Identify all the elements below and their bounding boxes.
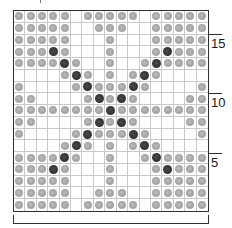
light-bead-icon bbox=[175, 106, 183, 114]
light-bead-icon bbox=[95, 130, 103, 138]
grid-cell bbox=[14, 164, 25, 176]
grid-cell bbox=[71, 117, 82, 129]
grid-cell bbox=[117, 129, 128, 141]
grid-cell bbox=[151, 117, 162, 129]
light-bead-icon bbox=[198, 95, 206, 103]
grid-cell bbox=[37, 105, 48, 117]
light-bead-icon bbox=[84, 95, 92, 103]
grid-cell bbox=[105, 152, 116, 164]
grid-cell bbox=[94, 199, 105, 211]
light-bead-icon bbox=[15, 154, 23, 162]
light-bead-icon bbox=[106, 12, 114, 20]
grid-cell bbox=[25, 23, 36, 35]
light-bead-icon bbox=[175, 12, 183, 20]
grid-cell bbox=[37, 199, 48, 211]
light-bead-icon bbox=[95, 201, 103, 209]
light-bead-icon bbox=[118, 130, 126, 138]
grid-cell bbox=[197, 93, 208, 105]
grid-cell bbox=[185, 11, 196, 23]
grid-cell bbox=[37, 93, 48, 105]
grid-cell bbox=[14, 187, 25, 199]
light-bead-icon bbox=[15, 201, 23, 209]
grid-cell bbox=[140, 58, 151, 70]
dark-bead-icon bbox=[129, 82, 138, 91]
grid-cell bbox=[117, 46, 128, 58]
grid-cell bbox=[162, 23, 173, 35]
light-bead-icon bbox=[72, 154, 80, 162]
grid-cell bbox=[94, 187, 105, 199]
grid-cell bbox=[25, 11, 36, 23]
grid-cell bbox=[25, 129, 36, 141]
light-bead-icon bbox=[84, 201, 92, 209]
grid-cell bbox=[151, 46, 162, 58]
dark-bead-icon bbox=[140, 141, 149, 150]
grid-cell bbox=[48, 117, 59, 129]
grid-cell bbox=[105, 117, 116, 129]
grid-cell bbox=[71, 129, 82, 141]
light-bead-icon bbox=[61, 201, 69, 209]
grid-cell bbox=[82, 105, 93, 117]
light-bead-icon bbox=[27, 36, 35, 44]
grid-cell bbox=[151, 82, 162, 94]
light-bead-icon bbox=[198, 48, 206, 56]
light-bead-icon bbox=[49, 106, 57, 114]
light-bead-icon bbox=[15, 177, 23, 185]
grid-cell bbox=[117, 23, 128, 35]
light-bead-icon bbox=[38, 189, 46, 197]
grid-cell bbox=[71, 105, 82, 117]
light-bead-icon bbox=[175, 165, 183, 173]
light-bead-icon bbox=[198, 165, 206, 173]
light-bead-icon bbox=[61, 142, 69, 150]
grid-cell bbox=[174, 105, 185, 117]
grid-cell bbox=[105, 140, 116, 152]
grid-cell bbox=[162, 199, 173, 211]
light-bead-icon bbox=[15, 189, 23, 197]
grid-cell bbox=[25, 82, 36, 94]
grid-cell bbox=[71, 187, 82, 199]
grid-cell bbox=[140, 187, 151, 199]
grid-cell bbox=[174, 11, 185, 23]
light-bead-icon bbox=[175, 24, 183, 32]
light-bead-icon bbox=[38, 12, 46, 20]
dark-bead-icon bbox=[83, 82, 92, 91]
light-bead-icon bbox=[175, 154, 183, 162]
grid-cell bbox=[185, 82, 196, 94]
light-bead-icon bbox=[152, 71, 160, 79]
grid-cell bbox=[82, 70, 93, 82]
grid-cell bbox=[60, 23, 71, 35]
grid-cell bbox=[174, 23, 185, 35]
grid-cell bbox=[82, 35, 93, 47]
grid-cell bbox=[71, 82, 82, 94]
grid-cell bbox=[60, 35, 71, 47]
grid-cell bbox=[162, 70, 173, 82]
grid-cell bbox=[151, 140, 162, 152]
grid-cell bbox=[151, 199, 162, 211]
grid-cell bbox=[185, 140, 196, 152]
light-bead-icon bbox=[198, 201, 206, 209]
grid-cell bbox=[174, 58, 185, 70]
grid-cell bbox=[94, 117, 105, 129]
grid-cell bbox=[25, 93, 36, 105]
light-bead-icon bbox=[27, 106, 35, 114]
grid-cell bbox=[48, 46, 59, 58]
grid-cell bbox=[48, 23, 59, 35]
grid-cell bbox=[174, 70, 185, 82]
light-bead-icon bbox=[141, 106, 149, 114]
grid-cell bbox=[14, 129, 25, 141]
light-bead-icon bbox=[49, 154, 57, 162]
dark-bead-icon bbox=[117, 94, 126, 103]
light-bead-icon bbox=[49, 189, 57, 197]
grid-cell bbox=[117, 176, 128, 188]
grid-cell bbox=[117, 199, 128, 211]
light-bead-icon bbox=[72, 83, 80, 91]
grid-cell bbox=[185, 70, 196, 82]
grid-cell bbox=[151, 11, 162, 23]
grid-cell bbox=[140, 11, 151, 23]
light-bead-icon bbox=[186, 177, 194, 185]
grid-cell bbox=[128, 152, 139, 164]
grid-cell bbox=[128, 35, 139, 47]
grid-cell bbox=[48, 58, 59, 70]
grid-cell bbox=[60, 70, 71, 82]
light-bead-icon bbox=[129, 201, 137, 209]
grid-cell bbox=[48, 199, 59, 211]
